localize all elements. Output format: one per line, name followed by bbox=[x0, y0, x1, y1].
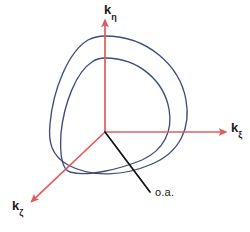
outer-wavevector-surface-curve bbox=[50, 36, 188, 174]
k-eta-axis-label: kη bbox=[104, 3, 117, 20]
wavevector-surface-group bbox=[50, 36, 188, 174]
optical-axis-label: o.a. bbox=[155, 186, 174, 198]
wavevector-surface-diagram bbox=[0, 0, 250, 232]
k-zeta-axis-label: kζ bbox=[12, 199, 23, 216]
k-zeta-subscript: ζ bbox=[19, 208, 23, 218]
k-xi-subscript: ξ bbox=[238, 130, 242, 140]
k-xi-axis-label: kξ bbox=[231, 121, 242, 138]
k-eta-subscript: η bbox=[111, 12, 117, 22]
axes-group bbox=[31, 20, 226, 202]
optical-axis-line bbox=[105, 132, 150, 192]
inner-wavevector-surface-curve bbox=[61, 58, 170, 174]
figure-container: kη kξ kζ o.a. bbox=[0, 0, 250, 232]
k-zeta-axis-line bbox=[31, 132, 105, 202]
